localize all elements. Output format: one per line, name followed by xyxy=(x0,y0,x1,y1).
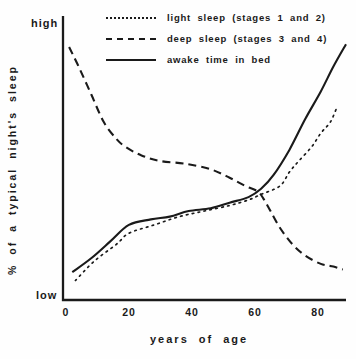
legend-item-light-sleep: light sleep (stages 1 and 2) xyxy=(106,7,327,28)
dotted-line-swatch xyxy=(106,17,156,19)
y-axis-high-label: high xyxy=(31,17,58,29)
legend-label: deep sleep (stages 3 and 4) xyxy=(167,33,327,44)
x-tick-60: 60 xyxy=(240,306,270,318)
sleep-stages-chart: light sleep (stages 1 and 2) deep sleep … xyxy=(0,0,356,359)
solid-line-swatch xyxy=(106,59,156,61)
awake-time-curve xyxy=(72,44,346,272)
x-tick-0: 0 xyxy=(51,306,81,318)
x-tick-80: 80 xyxy=(303,306,333,318)
x-tick-40: 40 xyxy=(177,306,207,318)
y-axis-low-label: low xyxy=(36,289,57,301)
x-axis-title: years of age xyxy=(150,333,242,345)
x-tick-20: 20 xyxy=(114,306,144,318)
legend-item-awake-time: awake time in bed xyxy=(106,49,327,70)
legend: light sleep (stages 1 and 2) deep sleep … xyxy=(106,7,327,70)
legend-label: light sleep (stages 1 and 2) xyxy=(167,12,326,23)
y-axis-title: % of a typical night's sleep xyxy=(6,45,22,295)
legend-label: awake time in bed xyxy=(167,54,271,65)
legend-item-deep-sleep: deep sleep (stages 3 and 4) xyxy=(106,28,327,49)
dashed-line-swatch xyxy=(106,38,156,40)
